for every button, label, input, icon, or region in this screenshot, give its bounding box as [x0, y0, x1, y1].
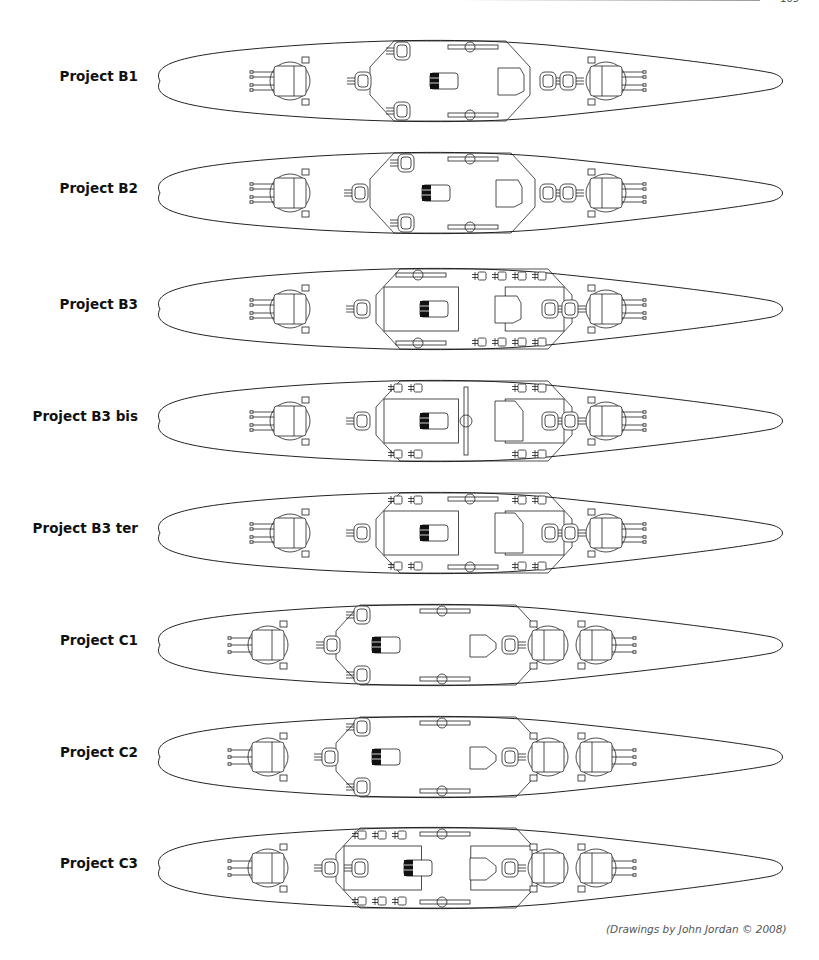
- ship-label: Project C3: [0, 855, 138, 871]
- ship-label: Project B1: [0, 68, 138, 84]
- bridge-tower-icon: [420, 525, 448, 541]
- funnel-icon: [495, 296, 521, 323]
- ship-plan-drawing: [140, 259, 800, 359]
- hull-outline: [158, 152, 782, 233]
- funnel-icon: [498, 68, 524, 95]
- bridge-tower-icon: [372, 749, 400, 765]
- ship-plan-drawing: [140, 595, 800, 695]
- ship-plan-drawing: [140, 143, 800, 243]
- ship-plan-drawing: [140, 818, 800, 918]
- hull-outline: [158, 40, 782, 121]
- hull-outline: [158, 268, 782, 349]
- funnel-icon: [495, 401, 523, 441]
- bridge-tower-icon: [422, 185, 450, 201]
- page-number: 165: [780, 0, 799, 4]
- bridge-tower-icon: [372, 637, 400, 653]
- ship-row: Project B2: [0, 143, 819, 255]
- hull-outline: [158, 492, 782, 573]
- ship-label: Project B2: [0, 180, 138, 196]
- ship-plan-drawing: [140, 483, 800, 583]
- ship-label: Project B3: [0, 296, 138, 312]
- ship-row: Project B3: [0, 259, 819, 371]
- ship-row: Project B3 ter: [0, 483, 819, 595]
- bridge-tower-icon: [420, 301, 448, 317]
- funnel-icon: [496, 180, 522, 207]
- drawing-credit-caption: (Drawings by John Jordan © 2008): [606, 923, 787, 935]
- hull-outline: [158, 380, 782, 461]
- ship-row: Project B3 bis: [0, 371, 819, 483]
- bridge-tower-icon: [404, 860, 432, 876]
- ship-label: Project B3 ter: [0, 520, 138, 536]
- ship-row: Project C1: [0, 595, 819, 707]
- ship-row: Project C2: [0, 707, 819, 819]
- bridge-tower-icon: [420, 413, 448, 429]
- ship-row: Project C3: [0, 818, 819, 930]
- ship-plan-drawing: [140, 31, 800, 131]
- ship-row: Project B1: [0, 31, 819, 143]
- ship-plan-drawing: [140, 371, 800, 471]
- ship-label: Project C2: [0, 744, 138, 760]
- ship-label: Project B3 bis: [0, 408, 138, 424]
- header-rule: [460, 0, 760, 1]
- bridge-tower-icon: [430, 73, 458, 89]
- ship-label: Project C1: [0, 632, 138, 648]
- funnel-icon: [495, 513, 523, 553]
- ship-plan-drawing: [140, 707, 800, 807]
